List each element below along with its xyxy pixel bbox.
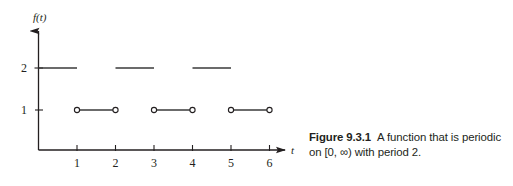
x-tick-label-2: 2	[113, 156, 119, 170]
x-tick-label-4: 4	[190, 156, 196, 170]
figure-container: f(t) t 2 1 1 2 3 4 5 6	[0, 0, 513, 186]
open-circle-x4	[190, 107, 195, 112]
open-circle-x6	[267, 107, 272, 112]
figure-caption-label: Figure 9.3.1	[309, 131, 371, 143]
open-circle-x3	[151, 107, 156, 112]
x-tick-label-1: 1	[74, 156, 80, 170]
x-tick-label-6: 6	[267, 156, 273, 170]
y-axis-label: f(t)	[33, 11, 47, 24]
figure-caption: Figure 9.3.1A function that is periodic …	[309, 130, 505, 159]
x-axis-label: t	[291, 144, 295, 156]
open-circle-x5	[228, 107, 233, 112]
function-plot: f(t) t 2 1 1 2 3 4 5 6	[0, 0, 300, 186]
y-tick-label-1: 1	[21, 103, 27, 117]
open-circle-x1	[74, 107, 79, 112]
y-tick-label-2: 2	[21, 61, 27, 75]
x-tick-label-5: 5	[228, 156, 234, 170]
x-tick-label-3: 3	[151, 156, 157, 170]
open-circle-x2	[113, 107, 118, 112]
